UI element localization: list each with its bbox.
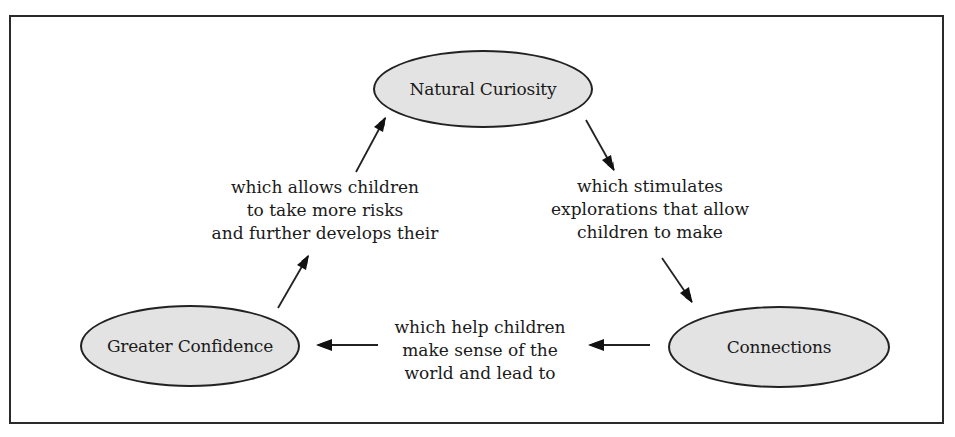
arrowheads [297,117,692,351]
arrows-layer [0,0,955,437]
arrowhead-icon [602,155,614,171]
arrowhead-icon [588,339,604,351]
arrowhead-icon [680,287,692,303]
arrowhead-icon [374,117,386,132]
arrowhead-icon [316,339,332,351]
arrowhead-icon [297,255,309,270]
